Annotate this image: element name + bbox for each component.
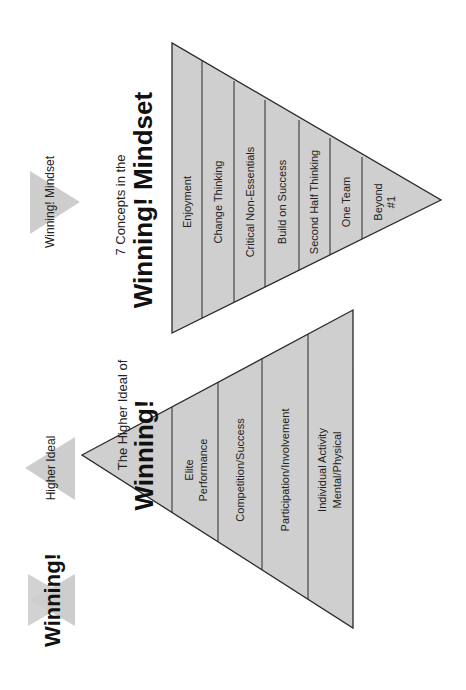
level-build-on-success: Build on Success (276, 159, 288, 244)
higher-ideal-title-large: Winning! (129, 400, 159, 511)
higher-ideal-title-small: The Higher Ideal of (115, 359, 130, 470)
mindset-title-small: 7 Concepts in the (113, 154, 128, 255)
level-beyond-line1: Beyond (372, 183, 384, 220)
level-enjoyment: Enjoyment (181, 176, 193, 228)
level-elite-line1: Elite (183, 459, 195, 480)
level-competition: Competition/Success (234, 418, 246, 522)
legend-higher-ideal-label: Higher Ideal (44, 436, 58, 501)
level-individual-line2: Mental/Physical (331, 431, 343, 508)
diagram-canvas: Winning! Higher Ideal Winning! Mindset T… (0, 0, 466, 690)
level-one-team: One Team (340, 177, 352, 228)
mindset-title-large: Winning! Mindset (128, 91, 158, 308)
level-elite-line2: Performance (197, 439, 209, 502)
level-individual-line1: Individual Activity (316, 428, 328, 512)
legend-winning-label: Winning! (40, 553, 65, 647)
level-second-half-thinking: Second Half Thinking (308, 150, 320, 254)
level-critical-non-essentials: Critical Non-Essentials (244, 146, 256, 257)
level-beyond-line2: #1 (385, 196, 397, 208)
level-change-thinking: Change Thinking (212, 161, 224, 244)
level-participation: Participation/Involvement (279, 409, 291, 532)
legend-winning-mindset-label: Winning! Mindset (43, 155, 57, 248)
